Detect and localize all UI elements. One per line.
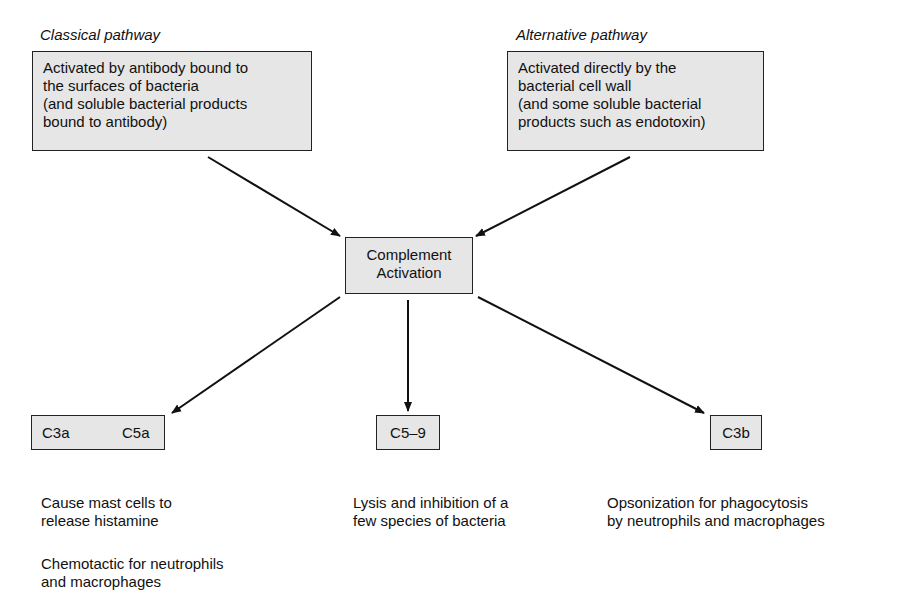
arrow-alternative-to-center <box>476 157 630 236</box>
alternative-line: products such as endotoxin) <box>518 113 763 131</box>
c5-9-box: C5–9 <box>376 415 440 450</box>
center-line: Activation <box>346 264 472 282</box>
alternative-pathway-box: Activated directly by the bacterial cell… <box>507 51 764 151</box>
c3a-label: C3a <box>42 424 70 441</box>
c5a-label: C5a <box>122 424 150 442</box>
arrow-center-to-c3a-c5a <box>172 297 340 413</box>
c3b-label: C3b <box>722 424 750 441</box>
c5-9-label: C5–9 <box>390 424 426 441</box>
classical-line: Activated by antibody bound to <box>43 59 311 77</box>
center-line: Complement <box>346 246 472 264</box>
alternative-line: bacterial cell wall <box>518 77 763 95</box>
alternative-line: Activated directly by the <box>518 59 763 77</box>
classical-line: the surfaces of bacteria <box>43 77 311 95</box>
c3b-box: C3b <box>710 415 762 450</box>
c3b-effect: Opsonization for phagocytosis by neutrop… <box>607 494 825 530</box>
arrow-center-to-c3b <box>478 297 704 413</box>
c3a-c5a-box: C3a C5a <box>31 415 165 450</box>
complement-activation-box: Complement Activation <box>345 237 473 294</box>
classical-line: (and soluble bacterial products <box>43 95 311 113</box>
c5-9-effect: Lysis and inhibition of a few species of… <box>353 494 508 530</box>
classical-pathway-box: Activated by antibody bound to the surfa… <box>32 51 312 151</box>
c3a-c5a-effect-1: Cause mast cells to release histamine <box>41 494 172 530</box>
alternative-pathway-title: Alternative pathway <box>516 26 647 43</box>
classical-line: bound to antibody) <box>43 113 311 131</box>
arrow-classical-to-center <box>208 157 340 236</box>
alternative-line: (and some soluble bacterial <box>518 95 763 113</box>
classical-pathway-title: Classical pathway <box>40 26 160 43</box>
c3a-c5a-effect-2: Chemotactic for neutrophils and macropha… <box>41 555 224 591</box>
